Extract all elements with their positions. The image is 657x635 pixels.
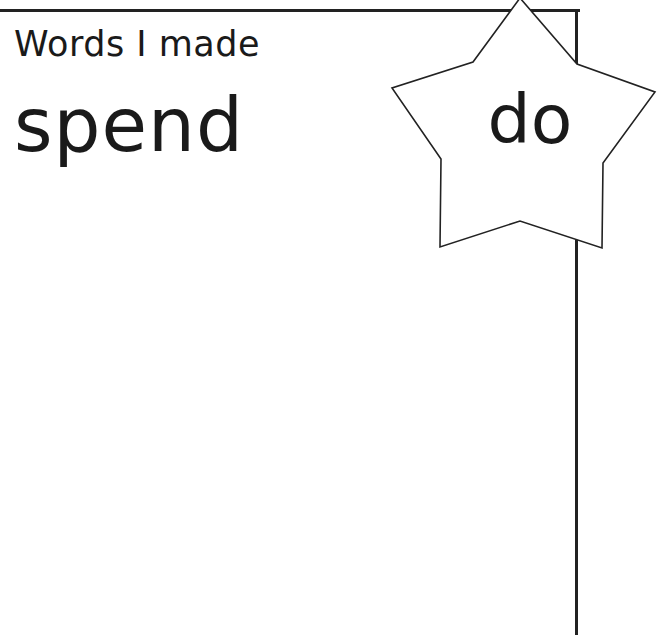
star-word: do [450, 80, 610, 159]
